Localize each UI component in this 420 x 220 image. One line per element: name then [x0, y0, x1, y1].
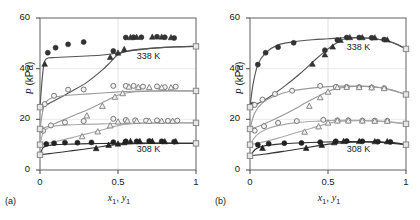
data-point-filled-circle: [81, 40, 86, 45]
panel-label: (b): [215, 196, 226, 206]
data-point-filled-circle: [44, 141, 49, 146]
data-point-filled-circle: [255, 62, 260, 67]
data-point-open-circle: [81, 119, 86, 124]
data-point-filled-triangle: [42, 61, 48, 66]
data-point-open-triangle: [306, 103, 312, 108]
data-point-filled-circle: [266, 141, 271, 146]
data-point-open-circle: [81, 87, 86, 92]
data-point-open-circle: [290, 88, 295, 93]
data-point-open-square: [37, 126, 42, 131]
y-tick-label: 60: [218, 11, 240, 22]
data-point-filled-circle: [263, 50, 268, 55]
data-point-open-circle: [111, 83, 116, 88]
data-point-filled-circle: [111, 140, 116, 145]
data-point-open-circle: [262, 124, 267, 129]
data-point-open-circle: [294, 119, 299, 124]
data-point-open-square: [247, 153, 252, 158]
figure-vle-pxy: 020406000.51338 K308 KP (kPa)x1, y1(a)02…: [0, 0, 420, 220]
gridlines: [40, 18, 196, 170]
data-point-open-circle: [155, 118, 160, 123]
y-axis-label: P (kPa): [234, 43, 245, 113]
data-point-open-circle: [66, 87, 71, 92]
data-point-open-square: [37, 152, 42, 157]
data-point-open-square: [247, 104, 252, 109]
data-point-filled-circle: [155, 34, 160, 39]
data-point-open-triangle: [325, 89, 331, 94]
temperature-annotation: 308 K: [137, 144, 161, 154]
data-point-open-circle: [111, 116, 116, 121]
data-point-open-square: [403, 121, 408, 126]
temperature-annotation: 338 K: [137, 51, 161, 61]
tick-marks: [246, 18, 406, 174]
data-point-open-square: [403, 142, 408, 147]
x-tick-label: 0: [27, 176, 53, 187]
y-tick-label: 0: [218, 163, 240, 174]
y-tick-label: 20: [8, 112, 30, 123]
data-point-open-triangle: [146, 84, 152, 89]
data-point-filled-circle: [89, 140, 94, 145]
data-point-filled-circle: [291, 40, 296, 45]
panel-b: 020406000.51338 K308 KP (kPa)x1, y1(b): [210, 0, 420, 220]
temperature-annotation: 338 K: [347, 42, 371, 52]
data-point-filled-circle: [255, 142, 260, 147]
data-point-filled-circle: [66, 42, 71, 47]
data-point-open-circle: [131, 83, 136, 88]
x-axis-label: x1, y1: [40, 192, 198, 205]
data-point-filled-triangle: [107, 54, 113, 59]
x-tick-label: 0.5: [105, 176, 131, 187]
y-axis-label: P (kPa): [24, 43, 35, 113]
data-point-filled-circle: [299, 140, 304, 145]
data-point-open-triangle: [84, 113, 90, 118]
data-point-open-square: [193, 44, 198, 49]
data-point-filled-circle: [282, 141, 287, 146]
data-point-open-circle: [62, 120, 67, 125]
y-tick-label: 20: [218, 112, 240, 123]
data-point-open-square: [247, 126, 252, 131]
data-point-filled-circle: [276, 45, 281, 50]
data-point-filled-circle: [62, 140, 67, 145]
data-point-open-square: [37, 104, 42, 109]
x-tick-label: 1: [393, 176, 419, 187]
data-point-filled-circle: [75, 140, 80, 145]
data-point-open-circle: [175, 118, 180, 123]
data-point-open-square: [193, 88, 198, 93]
data-point-open-triangle: [112, 94, 118, 99]
data-point-open-circle: [318, 83, 323, 88]
panel-label: (a): [5, 196, 16, 206]
data-point-open-triangle: [317, 94, 323, 99]
data-point-open-square: [37, 142, 42, 147]
data-point-open-circle: [52, 93, 57, 98]
y-tick-label: 0: [8, 163, 30, 174]
data-point-open-circle: [321, 117, 326, 122]
data-point-filled-circle: [111, 48, 116, 53]
x-tick-label: 0.5: [315, 176, 341, 187]
panel-a: 020406000.51338 K308 KP (kPa)x1, y1(a): [0, 0, 210, 220]
data-point-open-square: [247, 142, 252, 147]
data-point-open-square: [403, 92, 408, 97]
data-point-open-circle: [276, 120, 281, 125]
data-point-filled-circle: [52, 141, 57, 146]
y-tick-label: 60: [8, 11, 30, 22]
data-point-filled-triangle: [121, 46, 127, 51]
data-point-open-circle: [173, 84, 178, 89]
temperature-annotation: 308 K: [347, 144, 371, 154]
data-point-open-circle: [155, 84, 160, 89]
data-point-open-square: [193, 141, 198, 146]
data-point-open-circle: [272, 92, 277, 97]
data-point-open-square: [193, 120, 198, 125]
data-point-open-circle: [140, 84, 145, 89]
data-point-filled-circle: [53, 45, 58, 50]
x-tick-label: 1: [183, 176, 209, 187]
data-point-open-circle: [260, 97, 265, 102]
data-point-open-circle: [48, 123, 53, 128]
data-point-filled-circle: [45, 50, 50, 55]
x-tick-label: 0: [237, 176, 263, 187]
x-axis-label: x1, y1: [250, 192, 408, 205]
data-point-open-square: [403, 46, 408, 51]
